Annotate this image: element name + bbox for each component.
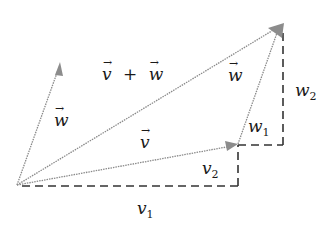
label-w-left-text: w <box>54 112 69 129</box>
label-w-left: w <box>54 112 69 129</box>
label-w-right: w <box>228 67 243 84</box>
label-v: v <box>140 134 150 151</box>
vector-w-from-origin <box>17 70 58 185</box>
label-w2-sub: 2 <box>310 90 317 103</box>
label-v1-base: v <box>137 198 147 218</box>
label-v1: v1 <box>137 200 154 220</box>
label-sum-plus: + <box>123 64 137 84</box>
arrowhead-w-left-icon <box>55 62 63 76</box>
label-v2-sub: 2 <box>212 168 219 181</box>
arrowhead-sum-icon <box>268 23 284 38</box>
arrowhead-v-icon <box>225 141 238 151</box>
label-v-plus-w: v + w <box>102 66 163 83</box>
vector-addition-diagram: v + w w w v v1 v2 w1 w2 <box>0 0 329 228</box>
diagram-graphics <box>0 0 329 228</box>
label-v2-base: v <box>202 158 212 178</box>
label-w1-sub: 1 <box>263 126 270 139</box>
label-w2: w2 <box>295 82 317 102</box>
label-v2: v2 <box>202 160 219 180</box>
label-sum-w: w <box>149 66 164 83</box>
label-v-text: v <box>140 134 150 151</box>
label-w1: w1 <box>248 118 270 138</box>
label-w2-base: w <box>295 80 310 100</box>
label-w1-base: w <box>248 116 263 136</box>
label-sum-v: v <box>102 66 112 83</box>
label-v1-sub: 1 <box>147 208 154 221</box>
label-w-right-text: w <box>228 67 243 84</box>
